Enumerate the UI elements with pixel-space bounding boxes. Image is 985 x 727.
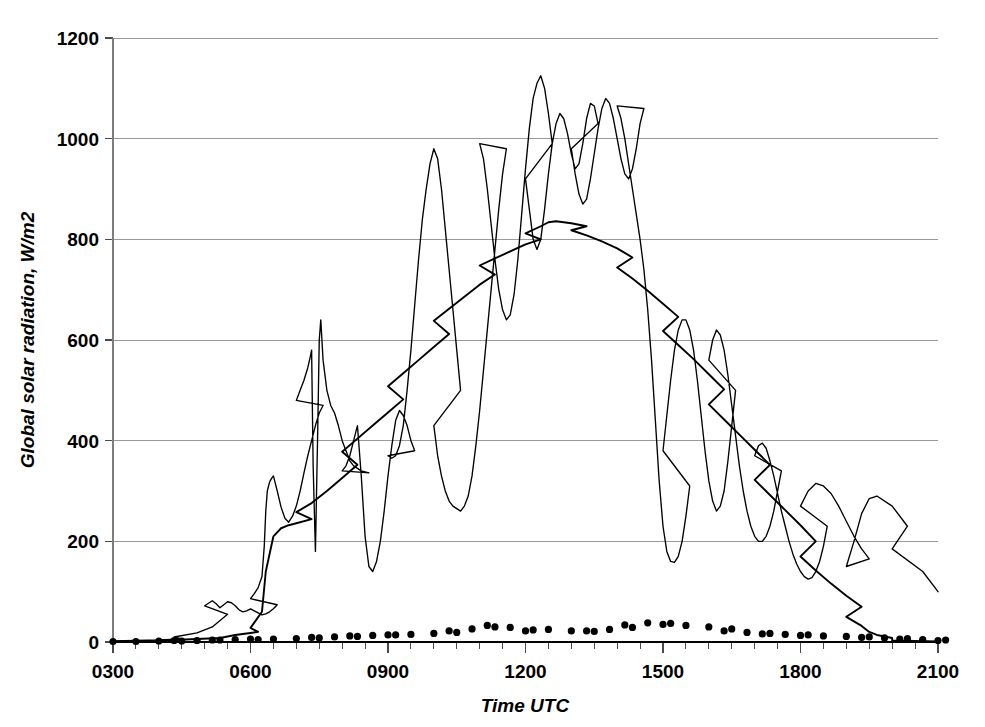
y-tick-label-600: 600 [67, 330, 99, 351]
x-tick-label-1800: 1800 [779, 661, 821, 682]
series-dot-marker [606, 626, 613, 633]
series-dot-marker [308, 634, 315, 641]
x-axis-title: Time UTC [481, 695, 570, 716]
x-tick-label-0900: 0900 [367, 661, 409, 682]
series-dot-marker [659, 621, 666, 628]
series-dot-marker [759, 630, 766, 637]
series-dot-marker [682, 622, 689, 629]
series-dot-marker [522, 627, 529, 634]
series-dot-marker [721, 627, 728, 634]
y-tick-label-0: 0 [88, 632, 99, 653]
series-dot-marker [331, 633, 338, 640]
series-dot-marker [491, 623, 498, 630]
series-dot-marker [316, 634, 323, 641]
y-tick-label-1200: 1200 [57, 28, 99, 49]
y-tick-label-1000: 1000 [57, 129, 99, 150]
series-dot-marker [591, 628, 598, 635]
series-dot-marker [805, 631, 812, 638]
series-dot-marker [407, 631, 414, 638]
series-dot-marker [446, 627, 453, 634]
series-dot-marker [507, 624, 514, 631]
series-dot-marker [545, 626, 552, 633]
series-dot-marker [743, 629, 750, 636]
series-dot-marker [644, 619, 651, 626]
series-dot-marker [866, 633, 873, 640]
series-dot-marker [843, 633, 850, 640]
x-tick-label-0600: 0600 [229, 661, 271, 682]
series-dot-marker [369, 632, 376, 639]
y-tick-label-800: 800 [67, 229, 99, 250]
y-tick-label-200: 200 [67, 531, 99, 552]
x-tick-label-1200: 1200 [504, 661, 546, 682]
series-dot-marker [392, 631, 399, 638]
series-dot-marker [346, 632, 353, 639]
chart-canvas: 020040060080010001200 030006000900120015… [0, 0, 985, 727]
series-dot-marker [430, 630, 437, 637]
y-axis-title: Global solar radiation, W/m2 [17, 211, 38, 468]
series-dot-marker [858, 634, 865, 641]
series-dot-marker [728, 625, 735, 632]
series-dot-marker [484, 622, 491, 629]
series-dot-marker [354, 633, 361, 640]
series-dot-marker [621, 621, 628, 628]
series-dot-marker [453, 629, 460, 636]
series-dot-marker [583, 627, 590, 634]
chart-background [0, 0, 985, 727]
x-tick-label-2100: 2100 [917, 661, 959, 682]
series-dot-marker [820, 632, 827, 639]
series-dot-marker [667, 620, 674, 627]
series-dot-marker [942, 636, 949, 643]
series-dot-marker [797, 632, 804, 639]
x-tick-label-1500: 1500 [642, 661, 684, 682]
x-tick-label-0300: 0300 [92, 661, 134, 682]
series-dot-marker [468, 625, 475, 632]
series-dot-marker [766, 630, 773, 637]
series-dot-marker [881, 634, 888, 641]
series-dot-marker [384, 631, 391, 638]
series-dot-marker [629, 624, 636, 631]
series-dot-marker [568, 627, 575, 634]
solar-radiation-chart-figure: 020040060080010001200 030006000900120015… [0, 0, 985, 727]
series-dot-marker [530, 626, 537, 633]
series-dot-marker [705, 623, 712, 630]
series-dot-marker [782, 631, 789, 638]
y-tick-label-400: 400 [67, 431, 99, 452]
